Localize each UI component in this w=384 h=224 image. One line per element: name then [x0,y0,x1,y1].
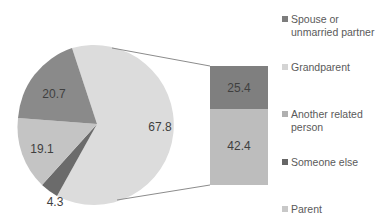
legend-item-parent: Parent [282,203,383,216]
pie-label-another: 19.1 [30,142,54,156]
legend-swatch-another-related [282,111,288,117]
legend-label-parent: Parent [291,203,383,216]
legend-swatch-parent [282,206,288,212]
legend-swatch-someone-else [282,159,288,165]
pie-label-spouse: 20.7 [42,87,66,101]
legend-label-someone-else: Someone else [291,156,383,169]
pie-label-someone-else: 4.3 [47,195,64,209]
legend-label-grandparent: Grandparent [291,61,383,74]
legend-label-spouse: Spouse or unmarried partner [291,13,383,39]
legend-item-spouse: Spouse or unmarried partner [282,13,383,39]
legend-item-another-related: Another related person [282,108,383,134]
legend-swatch-spouse [282,16,288,22]
legend-swatch-grandparent [282,64,288,70]
bar-label-bottom: 42.4 [227,139,251,153]
bar-label-top: 25.4 [227,81,251,95]
legend-label-another-related: Another related person [291,108,383,134]
legend-item-someone-else: Someone else [282,156,383,169]
legend-item-grandparent: Grandparent [282,61,383,74]
pie-label-main: 67.8 [148,120,172,134]
